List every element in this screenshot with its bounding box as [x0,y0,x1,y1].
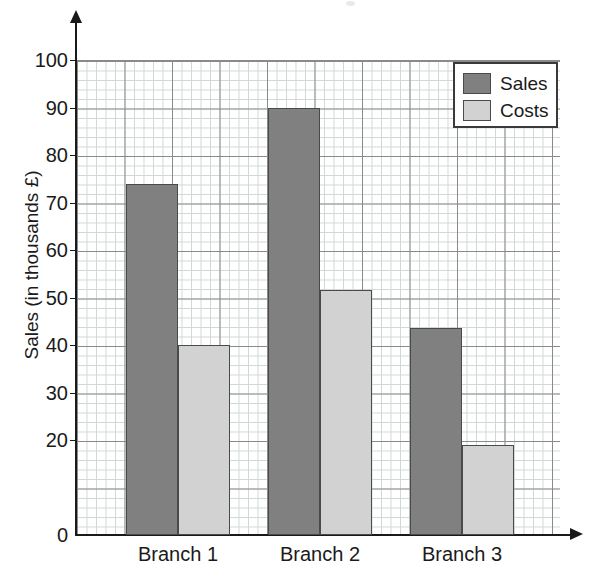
legend-label-costs: Costs [500,101,549,120]
legend-label-sales: Sales [500,74,548,93]
bar-sales-branch-3 [410,328,462,535]
y-tick-label: 20 [14,430,68,450]
bar-sales-branch-2 [268,108,320,536]
x-category-label-branch-3: Branch 3 [382,543,542,565]
y-tick-mark [70,440,77,441]
y-tick-mark [70,108,77,109]
y-tick-mark [70,155,77,156]
y-tick-mark [70,203,77,204]
y-tick-mark [70,250,77,251]
legend: Sales Costs [453,62,558,128]
y-axis-line [75,22,77,536]
bar-costs-branch-2 [320,290,372,535]
y-tick-mark [70,60,77,61]
scan-artifact [346,1,355,6]
y-tick-label: 100 [14,50,68,70]
y-tick-mark [70,298,77,299]
y-tick-label: 0 [14,525,68,545]
y-tick-mark [70,393,77,394]
bar-costs-branch-1 [178,345,230,535]
bar-sales-branch-1 [126,184,178,536]
arrow-right-icon [570,528,583,540]
bar-chart-figure: 100 90 80 70 60 50 40 30 20 0 Sales (in … [0,0,604,579]
legend-swatch-sales-icon [463,73,491,94]
x-category-label-branch-2: Branch 2 [240,543,400,565]
arrow-up-icon [70,10,82,23]
legend-item-costs: Costs [463,97,556,124]
y-axis-title: Sales (in thousands £) [22,115,42,415]
x-category-label-branch-1: Branch 1 [98,543,258,565]
legend-swatch-costs-icon [463,100,491,121]
y-tick-mark [70,345,77,346]
bar-costs-branch-3 [462,445,514,535]
legend-item-sales: Sales [463,70,556,97]
